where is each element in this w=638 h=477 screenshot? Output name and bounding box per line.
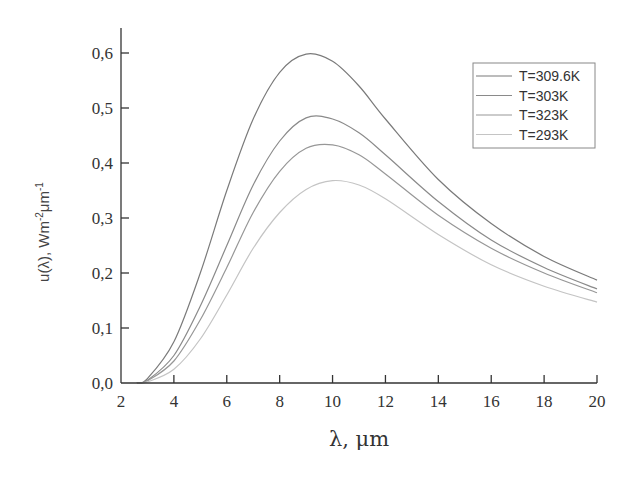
y-tick-label: 0,1 <box>92 319 113 338</box>
x-axis-title: λ, μm <box>329 427 389 451</box>
x-tick-label: 12 <box>377 392 394 411</box>
series-line <box>137 116 597 383</box>
y-tick-label: 0,4 <box>92 154 114 173</box>
series-line <box>137 144 597 383</box>
legend-label: T=293K <box>519 127 569 143</box>
legend-label: T=323K <box>519 107 569 123</box>
x-tick-label: 4 <box>170 392 179 411</box>
legend-label: T=309.6K <box>519 68 581 84</box>
x-tick-label: 20 <box>589 392 606 411</box>
y-tick-label: 0,2 <box>92 264 113 283</box>
chart: 2468101214161820 0,00,10,20,30,40,50,6 λ… <box>0 0 638 477</box>
y-ticks: 0,00,10,20,30,40,50,6 <box>92 44 129 393</box>
x-tick-label: 6 <box>223 392 232 411</box>
y-tick-label: 0,5 <box>92 99 113 118</box>
x-tick-label: 8 <box>275 392 284 411</box>
x-tick-label: 16 <box>483 392 500 411</box>
x-tick-label: 2 <box>117 392 126 411</box>
legend: T=309.6KT=303KT=323KT=293K <box>473 63 595 148</box>
series-line <box>137 180 597 383</box>
x-ticks: 2468101214161820 <box>117 375 606 411</box>
y-tick-label: 0,0 <box>92 374 113 393</box>
x-tick-label: 14 <box>430 392 448 411</box>
y-tick-label: 0,6 <box>92 44 113 63</box>
y-tick-label: 0,3 <box>92 209 113 228</box>
legend-label: T=303K <box>519 88 569 104</box>
y-axis-title: u(λ), Wm-2μm-1 <box>34 182 52 282</box>
x-tick-label: 18 <box>536 392 553 411</box>
x-tick-label: 10 <box>324 392 341 411</box>
